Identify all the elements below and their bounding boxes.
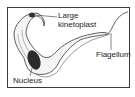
label-flagellum: Flagellum [96, 51, 131, 59]
label-kinetoplast-2: kinetoplast [58, 21, 96, 29]
label-kinetoplast-1: Large [58, 12, 78, 20]
kinetoplast [29, 13, 35, 18]
flagellum [108, 12, 128, 34]
label-nucleus: Nucleus [13, 77, 42, 85]
